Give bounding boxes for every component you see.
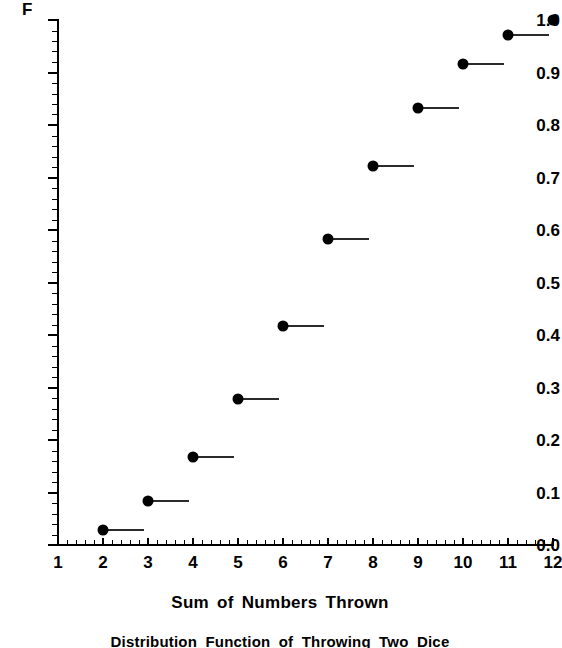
y-tick-minor [52,430,57,431]
y-tick-major [48,387,57,389]
y-tick-label: 0.6 [516,222,560,239]
x-tick-minor [382,540,383,545]
x-tick-major [327,538,329,546]
x-tick-label: 7 [323,554,332,571]
x-tick-label: 3 [143,554,152,571]
x-axis-title: Sum of Numbers Thrown [0,593,560,613]
y-tick-minor [52,482,57,483]
x-tick-major [462,538,464,546]
x-tick-minor [364,540,365,545]
x-tick-minor [454,540,455,545]
x-tick-major [192,538,194,546]
y-tick-major [48,439,57,441]
y-tick-minor [52,304,57,305]
y-tick-minor [52,293,57,294]
x-tick-minor [229,540,230,545]
y-tick-minor [52,272,57,273]
x-tick-minor [94,540,95,545]
x-tick-minor [265,540,266,545]
x-tick-minor [256,540,257,545]
step-segment [373,165,414,167]
y-tick-minor [52,94,57,95]
x-tick-label: 9 [413,554,422,571]
x-tick-label: 11 [499,554,517,571]
x-tick-major [507,538,509,546]
x-tick-minor [157,540,158,545]
y-tick-label: 0.7 [516,170,560,187]
x-tick-minor [184,540,185,545]
x-tick-minor [310,540,311,545]
y-tick-minor [52,472,57,473]
y-tick-minor [52,524,57,525]
x-tick-minor [472,540,473,545]
step-segment [193,456,234,458]
x-tick-minor [490,540,491,545]
step-segment [283,325,324,327]
x-tick-major [237,538,239,546]
x-tick-label: 4 [188,554,197,571]
x-tick-minor [166,540,167,545]
y-tick-minor [52,262,57,263]
x-tick-minor [499,540,500,545]
y-tick-minor [52,188,57,189]
x-tick-label: 5 [233,554,242,571]
data-point-marker [143,496,154,507]
x-tick-minor [175,540,176,545]
x-tick-minor [544,540,545,545]
y-tick-minor [52,41,57,42]
y-tick-minor [52,451,57,452]
x-tick-minor [337,540,338,545]
y-tick-major [48,177,57,179]
y-tick-label: 0.2 [516,432,560,449]
x-tick-minor [436,540,437,545]
x-tick-minor [400,540,401,545]
y-tick-minor [52,514,57,515]
x-tick-minor [76,540,77,545]
x-tick-minor [139,540,140,545]
x-tick-major [282,538,284,546]
y-tick-minor [52,535,57,536]
y-tick-minor [52,62,57,63]
data-point-marker [278,321,289,332]
x-tick-minor [247,540,248,545]
step-segment [418,107,459,109]
y-tick-minor [52,51,57,52]
x-tick-minor [445,540,446,545]
y-tick-minor [52,167,57,168]
x-tick-minor [517,540,518,545]
y-tick-label: 0.4 [516,327,560,344]
data-point-marker [458,58,469,69]
y-tick-minor [52,346,57,347]
x-tick-minor [526,540,527,545]
x-tick-minor [301,540,302,545]
y-tick-label: 0.3 [516,380,560,397]
y-tick-minor [52,114,57,115]
data-point-marker [548,15,559,26]
x-tick-minor [319,540,320,545]
y-tick-minor [52,377,57,378]
x-tick-minor [292,540,293,545]
x-axis-line [57,544,554,546]
x-tick-minor [67,540,68,545]
y-tick-major [48,492,57,494]
y-tick-label: 0.9 [516,65,560,82]
x-tick-minor [355,540,356,545]
y-tick-minor [52,83,57,84]
y-tick-major [48,229,57,231]
x-tick-minor [211,540,212,545]
y-tick-minor [52,104,57,105]
x-tick-label: 12 [544,554,562,571]
x-tick-minor [130,540,131,545]
y-tick-major [48,282,57,284]
y-tick-minor [52,419,57,420]
y-tick-minor [52,461,57,462]
x-tick-minor [409,540,410,545]
y-tick-minor [52,398,57,399]
x-tick-label: 2 [98,554,107,571]
y-tick-label: 0.1 [516,485,560,502]
step-segment [463,63,504,65]
y-tick-minor [52,31,57,32]
y-tick-minor [52,157,57,158]
y-tick-major [48,19,57,21]
y-tick-minor [52,209,57,210]
